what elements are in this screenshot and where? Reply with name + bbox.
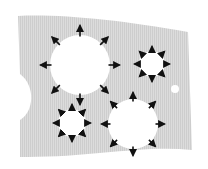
- gray-sheet: [18, 16, 192, 157]
- hole-dot: [171, 85, 179, 93]
- expansion-diagram: [0, 0, 208, 169]
